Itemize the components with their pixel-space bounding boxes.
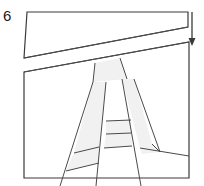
down-arrow-icon xyxy=(189,12,196,46)
panels-group xyxy=(24,12,189,178)
rung-upper-shape xyxy=(106,120,131,134)
line-drawing-figure xyxy=(0,0,204,186)
rung-lower-shape xyxy=(104,133,132,148)
step-number-label: 6 xyxy=(3,8,11,23)
figure-container: 6 xyxy=(0,0,204,186)
